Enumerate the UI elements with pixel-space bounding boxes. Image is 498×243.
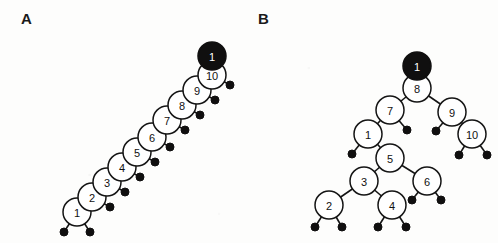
- node-5-label: 5: [134, 147, 140, 159]
- leaf-4-left: [374, 223, 382, 231]
- node-2-label: 2: [326, 200, 332, 212]
- panel-b-node-7[interactable]: 7: [376, 96, 404, 124]
- leaf-1-left: [60, 228, 68, 236]
- leaf-1-left: [348, 150, 356, 158]
- panel-b-node-3[interactable]: 3: [350, 167, 378, 195]
- leaf-8: [196, 111, 204, 119]
- panel-b-node-highlight[interactable]: 1: [403, 52, 431, 80]
- leaf-3: [121, 188, 129, 196]
- leaf-10-right: [483, 151, 491, 159]
- panel-b-node-5[interactable]: 5: [376, 144, 404, 172]
- leaf-6: [166, 143, 174, 151]
- node-7-label: 7: [387, 105, 393, 117]
- node-highlight-label: 1: [414, 61, 420, 73]
- leaf-4: [136, 173, 144, 181]
- figure-container: A B 123456789101879110536241: [0, 0, 498, 243]
- panel-a-node-highlight[interactable]: 1: [198, 42, 226, 70]
- leaf-6-left: [408, 196, 416, 204]
- panel-b-node-9[interactable]: 9: [438, 98, 466, 126]
- leaf-2-right: [338, 223, 346, 231]
- node-10-label: 10: [206, 70, 218, 82]
- tree-diagram-canvas: 123456789101879110536241: [0, 0, 498, 243]
- node-4-label: 4: [119, 162, 125, 174]
- node-5-label: 5: [387, 153, 393, 165]
- leaf-2: [106, 203, 114, 211]
- leaf-1-right: [86, 228, 94, 236]
- node-7-label: 7: [164, 115, 170, 127]
- node-1-label: 1: [74, 207, 80, 219]
- leaf-4-right: [402, 223, 410, 231]
- node-6-label: 6: [149, 132, 155, 144]
- leaf-7-right: [403, 126, 411, 134]
- node-6-label: 6: [424, 176, 430, 188]
- leaf-5: [151, 158, 159, 166]
- leaf-9: [211, 96, 219, 104]
- leaf-2-left: [311, 223, 319, 231]
- panel-b-node-10[interactable]: 10: [458, 120, 486, 148]
- node-3-label: 3: [104, 177, 110, 189]
- node-highlight-label: 1: [209, 51, 215, 63]
- node-9-label: 9: [194, 85, 200, 97]
- panel-a-tree: 123456789101: [60, 42, 234, 236]
- node-10-label: 10: [466, 129, 478, 141]
- leaf-9-left: [432, 127, 440, 135]
- node-8-label: 8: [179, 100, 185, 112]
- leaf-7: [181, 126, 189, 134]
- panel-b-node-4[interactable]: 4: [378, 191, 406, 219]
- node-2-label: 2: [89, 192, 95, 204]
- node-3-label: 3: [361, 176, 367, 188]
- leaf-6-right: [437, 196, 445, 204]
- leaf-10: [226, 81, 234, 89]
- node-8-label: 8: [414, 83, 420, 95]
- leaf-10-left: [455, 151, 463, 159]
- node-1-label: 1: [365, 129, 371, 141]
- panel-b-node-2[interactable]: 2: [315, 191, 343, 219]
- node-9-label: 9: [449, 107, 455, 119]
- panel-b-node-1[interactable]: 1: [354, 120, 382, 148]
- panel-b-tree: 879110536241: [311, 52, 491, 231]
- panel-b-node-6[interactable]: 6: [413, 167, 441, 195]
- node-4-label: 4: [389, 200, 395, 212]
